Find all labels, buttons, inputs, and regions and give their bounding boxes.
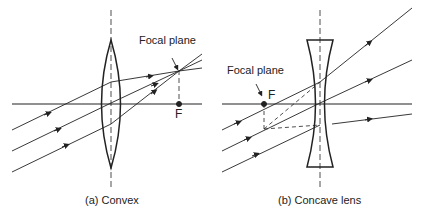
focal-point: [177, 102, 182, 107]
focal-point-label-b: F: [268, 88, 275, 102]
focal-point-label-a: F: [175, 107, 182, 121]
focal-plane-label-b: Focal plane: [227, 64, 284, 76]
focal-plane-label-a: Focal plane: [139, 34, 196, 46]
concave-panel: [222, 8, 412, 190]
focal-point: [262, 102, 267, 107]
caption-b: (b) Concave lens: [278, 194, 361, 206]
caption-a: (a) Convex: [85, 194, 139, 206]
lens-diagram: [0, 0, 424, 221]
